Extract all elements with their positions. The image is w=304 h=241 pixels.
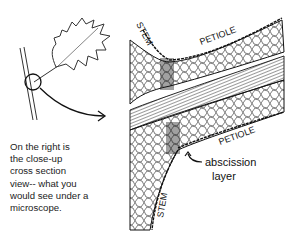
stem-icon (20, 47, 37, 120)
caption-line: would see under a (10, 190, 110, 202)
caption-line: On the right is (10, 141, 110, 153)
caption-line: cross section (10, 165, 110, 177)
label-stem-top: STEM (134, 20, 155, 47)
label-abscission: abscission (205, 156, 256, 168)
zoom-circle-icon (25, 74, 41, 90)
overview-sketch (20, 18, 110, 121)
leaf-stalk (34, 66, 58, 82)
abscission-arrow-icon (185, 152, 202, 162)
abscission-layer-bottom (166, 122, 180, 154)
arrow-icon (40, 88, 104, 116)
caption-text: On the right is the close-up cross secti… (10, 141, 110, 214)
caption-line: view-- what you (10, 178, 110, 190)
caption-line: microscope. (10, 202, 110, 214)
caption-line: the close-up (10, 153, 110, 165)
abscission-layer-top (160, 58, 174, 90)
label-layer: layer (212, 170, 236, 182)
cross-section: STEM PETIOLE PETIOLE STEM abscission lay… (130, 18, 284, 230)
